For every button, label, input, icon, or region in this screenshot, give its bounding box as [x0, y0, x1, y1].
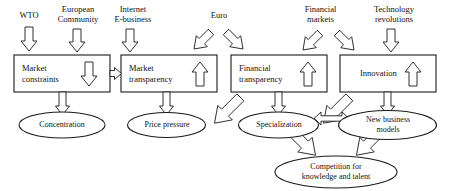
box-label-market-transparency: Market transparency [129, 63, 195, 84]
arrow-wto-to-market-constraints [21, 27, 37, 51]
oval-label-new-business-models: New business models [352, 115, 424, 134]
oval-label-specialization: Specialization [243, 120, 315, 130]
box-label-market-constraints: Market constraints [22, 63, 82, 84]
driver-label-european-community: European Community [47, 4, 109, 24]
arrow-euro-to-financial-transparency [223, 29, 243, 49]
box-label-financial-transparency: Financial transparency [239, 63, 303, 84]
arrow-internet-ebusiness-to-market-transparency [122, 29, 138, 52]
arrow-market-constraints-to-market-transparency [110, 68, 122, 80]
oval-label-concentration: Concentration [22, 120, 102, 130]
driver-label-internet-ebusiness: Internet E-business [103, 4, 163, 24]
oval-label-competition: Competition for knowledge and talent [281, 162, 391, 181]
arrow-technology-revolutions-to-innovation [383, 29, 399, 52]
driver-label-euro: Euro [198, 10, 240, 20]
arrow-european-community-to-market-constraints [69, 29, 85, 52]
arrow-market-transparency-to-price-pressure [160, 92, 174, 115]
arrow-euro-to-market-transparency [194, 29, 214, 49]
arrow-financial-transparency-to-price-pressure [215, 94, 244, 123]
arrow-financial-markets-to-innovation [334, 30, 354, 50]
driver-label-technology-revolutions: Technology revolutions [360, 4, 428, 24]
diagram-canvas: .sh{fill:#ffffff;stroke:#1a1a1a;stroke-w… [0, 0, 449, 191]
driver-label-wto: WTO [6, 10, 52, 20]
oval-label-price-pressure: Price pressure [130, 120, 204, 130]
driver-label-financial-markets: Financial markets [293, 4, 348, 24]
box-label-innovation: Innovation [360, 68, 420, 79]
arrow-financial-markets-to-financial-transparency [303, 30, 323, 50]
